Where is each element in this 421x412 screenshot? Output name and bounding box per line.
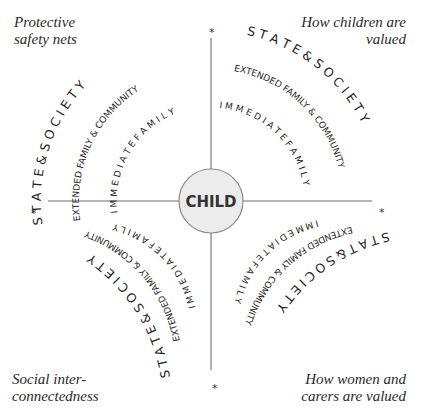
axis-star-right: * (379, 206, 385, 219)
corner-label-top-right: How children are valued (300, 14, 406, 47)
ring-text: I M M E D I A T E F A M I L Y (219, 100, 311, 187)
ring-text: S T A T & S O C I E T Y (273, 229, 391, 315)
axis-star-top: * (209, 26, 215, 39)
ring-text: I M M E D I A T E F A M I L Y (232, 218, 319, 305)
corner-label-line: How women and (304, 371, 406, 387)
corner-label-line: valued (366, 31, 406, 47)
ring-extended-family-bl: EXTENDED FAMILY & COMMUNITY (83, 229, 182, 342)
corner-label-line: connectedness (12, 388, 99, 404)
corner-label-top-left: Protective safety nets (13, 14, 77, 47)
corner-label-line: How children are (300, 14, 406, 30)
quadrant-bottom-left: S T A T E & S O C I E T Y EXTENDED FAMIL… (83, 222, 197, 379)
corner-label-line: Social inter- (12, 371, 86, 387)
ring-text: EXTENDED FAMILY & COMMUNITY (83, 229, 182, 342)
ring-state-society-br: S T A T & S O C I E T Y (273, 229, 391, 315)
quadrant-bottom-right: S T A T & S O C I E T Y EXTENDED FAMILY … (232, 218, 391, 327)
child-context-diagram: * * * * CHILD S T A T E & S O C I E T Y … (0, 0, 421, 412)
axis-star-bottom: * (212, 382, 218, 395)
ring-text: S T A T E & S O C I E T Y (84, 251, 173, 379)
ring-immediate-family-tr: I M M E D I A T E F A M I L Y (219, 100, 311, 187)
ring-extended-family-br: EXTENDED FAMILY & COMMUNITY (243, 225, 354, 327)
ring-immediate-family-tl: I M M E D I A T E F A M I L Y (109, 106, 177, 214)
quadrant-top-right: S T A T E & S O C I E T Y EXTENDED FAMIL… (219, 23, 373, 187)
corner-label-line: safety nets (14, 31, 77, 47)
corner-label-line: carers are valued (301, 388, 406, 404)
corner-label-bottom-right: How women and carers are valued (301, 371, 406, 404)
ring-immediate-family-br: I M M E D I A T E F A M I L Y (232, 218, 319, 305)
ring-text: I M M E D I A T E F A M I L Y (109, 106, 177, 214)
child-label: CHILD (185, 193, 236, 211)
ring-state-society-bl: S T A T E & S O C I E T Y (84, 251, 173, 379)
corner-label-bottom-left: Social inter- connectedness (12, 371, 99, 404)
corner-label-line: Protective (13, 14, 75, 30)
ring-text: EXTENDED FAMILY & COMMUNITY (243, 225, 354, 327)
quadrant-top-left: S T A T E & S O C I E T Y EXTENDED FAMIL… (29, 77, 177, 226)
